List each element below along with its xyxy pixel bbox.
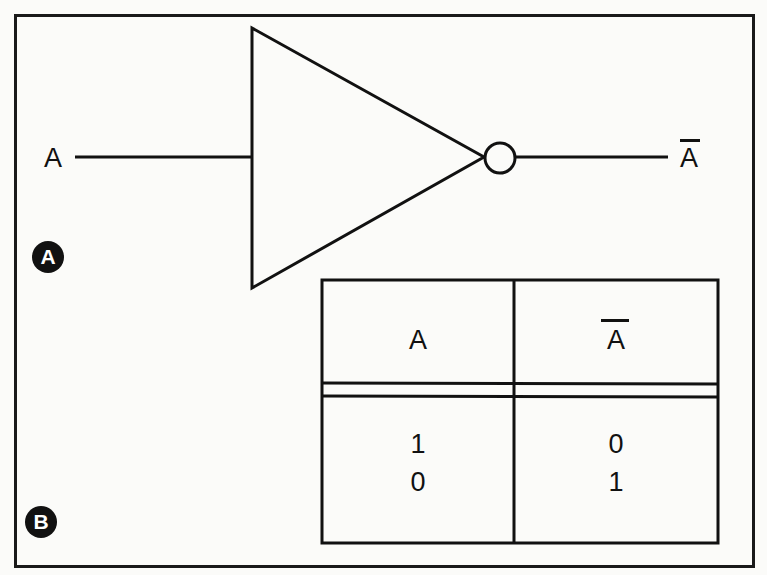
inversion-bubble-icon bbox=[485, 143, 515, 173]
truth-table-cell: 1 bbox=[322, 426, 514, 462]
input-label: A bbox=[44, 145, 62, 172]
truth-table-cell: 1 bbox=[514, 464, 718, 500]
panel-badge-a: A bbox=[32, 241, 64, 273]
truth-table-border bbox=[322, 280, 718, 543]
output-overbar bbox=[680, 139, 700, 142]
output-label: A bbox=[680, 145, 698, 172]
truth-table-cell: 0 bbox=[514, 426, 718, 462]
truth-table-header-not-a: A bbox=[514, 322, 718, 358]
truth-table-cell: 0 bbox=[322, 464, 514, 500]
truth-table-header-a: A bbox=[322, 322, 514, 358]
truth-table-header-rule-2 bbox=[322, 396, 718, 397]
not-gate-triangle-icon bbox=[252, 28, 484, 288]
truth-table-header-rule-1 bbox=[322, 383, 718, 384]
panel-badge-b: B bbox=[25, 506, 57, 538]
